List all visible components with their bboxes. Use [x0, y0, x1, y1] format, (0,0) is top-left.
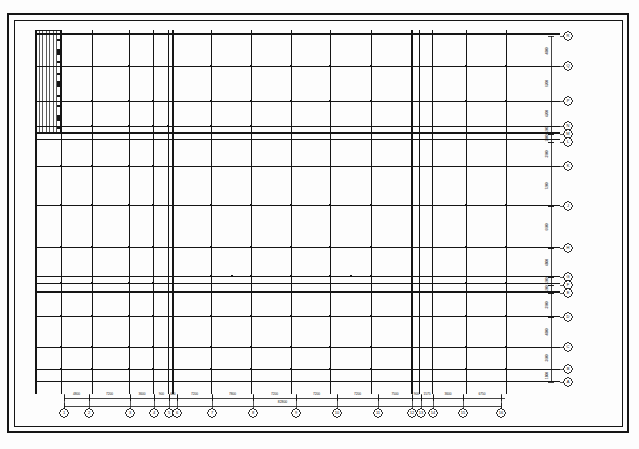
- column-marker: [329, 291, 332, 294]
- column-marker: [210, 100, 213, 103]
- column-marker: [91, 165, 94, 168]
- column-marker: [172, 65, 175, 68]
- column-marker: [172, 315, 175, 318]
- column-marker: [60, 346, 63, 349]
- grid-bubble-label-E: E: [567, 290, 570, 295]
- dim-value-bottom: 4800: [73, 392, 80, 396]
- column-marker: [290, 275, 293, 278]
- column-marker: [329, 246, 332, 249]
- column-grid-plan-svg: 4800720036009006007200780072007200720075…: [0, 0, 639, 449]
- column-marker: [91, 125, 94, 128]
- column-marker: [465, 291, 468, 294]
- dim-value-bottom: 900: [159, 392, 165, 396]
- column-marker: [411, 151, 414, 154]
- column-marker: [172, 346, 175, 349]
- dim-value-bottom: 600: [170, 392, 176, 396]
- grid-bubble-label-10: 10: [335, 410, 340, 415]
- column-marker: [505, 315, 508, 318]
- column-marker: [250, 346, 253, 349]
- dim-value-bottom: 7200: [271, 392, 278, 396]
- dim-value-right: 4800: [545, 259, 549, 266]
- dim-value-right: 4800: [545, 47, 549, 54]
- column-marker: [210, 275, 213, 278]
- column-marker: [411, 368, 414, 371]
- dim-value-right: 1200: [545, 285, 549, 292]
- column-marker: [210, 125, 213, 128]
- column-marker: [411, 246, 414, 249]
- grid-bubble-label-M: M: [566, 131, 569, 136]
- hatch-stud: [57, 81, 60, 86]
- column-marker: [250, 204, 253, 207]
- column-marker: [128, 65, 131, 68]
- dim-value-bottom: 7200: [313, 392, 320, 396]
- dim-value-right: 6200: [545, 80, 549, 87]
- column-marker: [152, 100, 155, 103]
- column-marker: [210, 204, 213, 207]
- column-marker: [505, 100, 508, 103]
- column-marker: [265, 132, 268, 135]
- column-marker: [91, 346, 94, 349]
- column-marker: [172, 151, 175, 154]
- column-marker: [152, 204, 155, 207]
- column-marker: [290, 346, 293, 349]
- dim-value-bottom: 7200: [106, 392, 113, 396]
- column-marker: [210, 246, 213, 249]
- hatch-stud: [57, 95, 60, 97]
- column-marker: [172, 275, 175, 278]
- column-marker: [370, 346, 373, 349]
- column-marker: [210, 65, 213, 68]
- column-marker: [128, 100, 131, 103]
- column-marker: [505, 282, 508, 285]
- column-marker: [329, 204, 332, 207]
- column-marker: [290, 204, 293, 207]
- column-marker: [250, 368, 253, 371]
- column-marker: [370, 100, 373, 103]
- column-marker: [370, 315, 373, 318]
- column-marker: [172, 100, 175, 103]
- dim-value-right: 1000: [545, 134, 549, 141]
- column-marker: [231, 275, 234, 278]
- column-marker: [152, 291, 155, 294]
- dim-value-right: 3600: [545, 354, 549, 361]
- column-marker: [505, 204, 508, 207]
- grid-bubble-label-H: H: [567, 245, 570, 250]
- dim-value-right: 4800: [545, 328, 549, 335]
- grid-bubble-label-16: 16: [499, 410, 504, 415]
- column-marker: [210, 346, 213, 349]
- column-marker: [167, 125, 170, 128]
- column-marker: [350, 275, 353, 278]
- column-marker: [370, 65, 373, 68]
- column-marker: [60, 291, 63, 294]
- column-marker: [465, 132, 468, 135]
- column-marker: [210, 315, 213, 318]
- sheet-background: [0, 0, 639, 449]
- column-marker: [231, 132, 234, 135]
- column-marker: [411, 132, 414, 135]
- column-marker: [91, 246, 94, 249]
- column-marker: [250, 275, 253, 278]
- column-marker: [505, 368, 508, 371]
- column-marker: [411, 100, 414, 103]
- column-marker: [91, 204, 94, 207]
- column-marker: [370, 132, 373, 135]
- column-marker: [152, 315, 155, 318]
- grid-bubble-label-14: 14: [431, 410, 436, 415]
- column-marker: [172, 165, 175, 168]
- dim-value-bottom: 7500: [391, 392, 398, 396]
- column-marker: [128, 204, 131, 207]
- dim-value-bottom: 900: [414, 392, 420, 396]
- column-marker: [465, 100, 468, 103]
- column-marker: [250, 100, 253, 103]
- column-marker: [250, 315, 253, 318]
- column-marker: [172, 291, 175, 294]
- dim-value-bottom: 1575: [423, 392, 430, 396]
- column-marker: [505, 65, 508, 68]
- grid-bubble-label-K: K: [567, 163, 570, 168]
- column-marker: [128, 291, 131, 294]
- hatch-stud: [57, 115, 60, 120]
- column-marker: [411, 65, 414, 68]
- column-marker: [465, 65, 468, 68]
- column-marker: [290, 246, 293, 249]
- column-marker: [329, 65, 332, 68]
- column-marker: [91, 291, 94, 294]
